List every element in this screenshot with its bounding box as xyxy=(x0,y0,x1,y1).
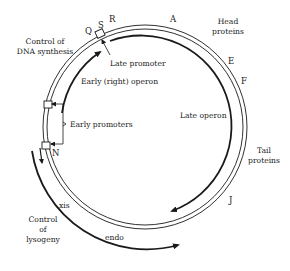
gene-label-e: E xyxy=(228,56,234,66)
gene-label-s: S xyxy=(98,20,104,30)
late-promoter-pointer xyxy=(102,40,110,55)
lysogeny-label-line1: Control xyxy=(29,215,59,224)
dna-synthesis-label-line1: Control of xyxy=(26,37,66,46)
gene-label-q: Q xyxy=(85,26,92,36)
early-promoter-box-lower xyxy=(42,142,50,149)
gene-label-j: J xyxy=(228,195,233,205)
head-proteins-label-line2: proteins xyxy=(212,27,244,36)
endo-label: endo xyxy=(105,233,124,242)
head-proteins-label-line1: Head xyxy=(218,17,239,26)
lysogeny-label-line3: lysogeny xyxy=(26,235,60,244)
dna-synthesis-label-line2: DNA synthesis xyxy=(17,47,73,56)
lysogeny-label-line2: of xyxy=(39,225,48,234)
gene-label-r: R xyxy=(109,14,116,24)
lambda-genome-diagram: Q S R A E F J N Head proteins Tail prote… xyxy=(0,0,290,271)
gene-label-f: F xyxy=(241,76,247,86)
gene-label-a: A xyxy=(169,14,177,24)
gene-label-n: N xyxy=(52,148,60,158)
tail-proteins-label-line2: proteins xyxy=(248,156,280,165)
late-promoter-label: Late promoter xyxy=(110,59,166,68)
early-promoters-bracket xyxy=(51,104,66,144)
tail-proteins-label-line1: Tail xyxy=(257,146,271,155)
early-right-operon-label: Early (right) operon xyxy=(81,77,158,86)
late-operon-label: Late operon xyxy=(180,111,227,120)
early-promoters-label: Early promoters xyxy=(70,120,133,129)
early-promoter-box-upper xyxy=(44,101,52,108)
xis-label: xis xyxy=(59,201,70,210)
lysogeny-start-arrow xyxy=(40,148,42,163)
